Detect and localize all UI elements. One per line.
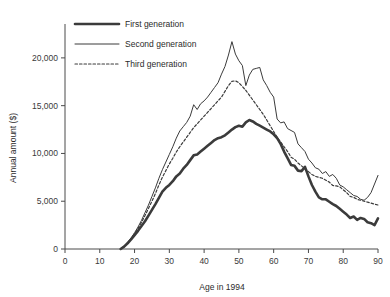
x-tick-label: 90 bbox=[373, 256, 383, 266]
x-tick-label: 30 bbox=[165, 256, 175, 266]
y-tick-label: 15,000 bbox=[32, 101, 58, 111]
x-tick-label: 0 bbox=[63, 256, 68, 266]
line-chart: 05,00010,00015,00020,000 010203040506070… bbox=[0, 0, 390, 297]
x-tick-label: 50 bbox=[234, 256, 244, 266]
x-tick-label: 10 bbox=[95, 256, 105, 266]
x-axis-title: Age in 1994 bbox=[199, 282, 245, 292]
series-line-2 bbox=[121, 42, 378, 249]
x-axis-tick-labels: 0102030405060708090 bbox=[63, 256, 383, 266]
data-series-layer bbox=[121, 42, 378, 249]
y-tick-label: 20,000 bbox=[32, 53, 58, 63]
chart-figure: 05,00010,00015,00020,000 010203040506070… bbox=[0, 0, 390, 297]
x-tick-label: 60 bbox=[269, 256, 279, 266]
legend-label-2: Second generation bbox=[125, 39, 197, 49]
tick-marks bbox=[61, 58, 378, 253]
x-tick-label: 80 bbox=[338, 256, 348, 266]
series-line-3 bbox=[121, 81, 378, 249]
y-tick-label: 5,000 bbox=[37, 196, 59, 206]
y-axis-title: Annual amount ($) bbox=[8, 113, 18, 183]
chart-legend: First generationSecond generationThird g… bbox=[75, 19, 197, 69]
x-tick-label: 70 bbox=[304, 256, 314, 266]
y-tick-label: 10,000 bbox=[32, 148, 58, 158]
x-tick-label: 40 bbox=[199, 256, 209, 266]
y-axis-tick-labels: 05,00010,00015,00020,000 bbox=[32, 53, 58, 254]
x-tick-label: 20 bbox=[130, 256, 140, 266]
y-tick-label: 0 bbox=[53, 244, 58, 254]
legend-label-3: Third generation bbox=[125, 59, 187, 69]
legend-label-1: First generation bbox=[125, 19, 184, 29]
